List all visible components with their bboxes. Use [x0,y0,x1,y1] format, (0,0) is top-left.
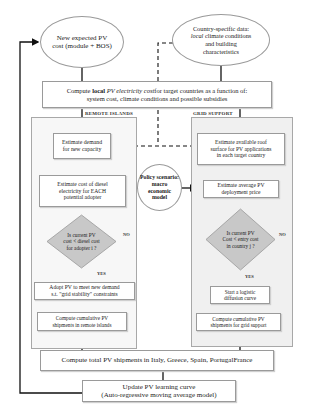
box-text: Compute [67,87,92,94]
box-text: Estimate average PV [218,182,265,188]
box-text: in each target country [217,152,266,158]
grid-no-label: NO [279,232,286,237]
box-text: potential adopter [64,194,102,200]
box-text: Compute total PV shipments in Italy, Gre… [62,356,253,364]
box-text: s.t. "grid stability" constraints [51,291,118,297]
box-text: for new capacity [63,146,102,152]
grid-decision-diamond: Is current PV Cost < entry cost in count… [205,208,276,271]
diamond-text: in country j ? [226,243,254,249]
ellipse-text: Country-specific data: [193,25,249,32]
box-text: Estimate available roof [215,139,267,145]
circle-text: Policy scenario: [140,174,179,180]
ellipse-text: climate conditions [203,32,251,39]
diamond-text: Cost < entry cost [222,236,258,242]
logistic-diffusion-box: Start a logistic diffusion curve [210,286,270,304]
box-text: surface for PV applications [211,146,272,152]
circle-text: economic [148,188,171,194]
panel-label-grid-support: GRID SUPPORT [193,111,233,116]
estimate-deployment-price-box: Estimate average PV deployment price [203,180,279,198]
box-text: Estimate cost of diesel [57,181,108,187]
remote-yes-label: YES [97,271,106,276]
box-text: for target countries as a function of: [154,87,247,94]
cumulative-grid-box: Compute cumulative PV shipments for grid… [196,313,281,331]
grid-yes-label: YES [245,274,254,279]
box-text: Compute cumulative PV [212,316,264,322]
ellipse-text: and building [205,40,237,47]
circle-text: macro [152,181,168,187]
remote-no-label: NO [123,232,130,237]
ellipse-text: New expected PV [57,34,108,42]
update-learning-curve-box: Update PV learning curve (Auto-regressiv… [82,380,236,402]
box-text: system cost, climate conditions and poss… [87,95,228,102]
compute-local-cost-box: Compute local PV electricity costfor tar… [42,81,272,108]
cumulative-remote-box: Compute cumulative PV shipments in remot… [37,312,127,331]
ellipse-text: cost (module + BOS) [52,42,112,50]
diamond-text: Is current PV [226,230,254,236]
panel-label-remote-islands: REMOTE ISLANDS [85,111,133,116]
box-text: Estimate demand [62,139,102,145]
ellipse-text: characteristics [203,48,239,55]
box-text: (Auto-regressive moving average model) [101,391,216,399]
box-text: Adopt PV to meet new demand [49,284,119,290]
diamond-text: for adopter i ? [67,245,97,251]
box-text: shipments in remote islands [53,322,112,328]
adopt-pv-box: Adopt PV to meet new demand s.t. "grid s… [34,282,135,300]
diamond-text: cost < diesel cost [63,238,99,244]
total-shipments-box: Compute total PV shipments in Italy, Gre… [40,350,274,371]
box-text-italic: PV electricity cost [105,87,154,94]
box-text: Update PV learning curve [123,383,196,391]
box-text: deployment price [221,189,260,195]
box-text: Start a logistic [225,289,256,295]
box-text: diffusion curve [224,295,256,301]
box-text-bold: local [92,87,105,94]
ellipse-text-italic: local [191,32,204,39]
box-text: shipments for grid support [210,322,266,328]
policy-scenario-circle: Policy scenario: macro economic model [137,164,182,211]
new-expected-pv-cost-ellipse: New expected PV cost (module + BOS) [40,16,124,68]
remote-decision-diamond: Is current PV cost < diesel cost for ado… [46,214,117,269]
box-text: Compute cumulative PV [56,315,108,321]
country-specific-data-ellipse: Country-specific data: local climate con… [172,14,270,66]
circle-text: model [152,194,167,200]
box-text: electricity for EACH [59,188,106,194]
estimate-roof-surface-box: Estimate available roof surface for PV a… [197,133,285,165]
estimate-demand-box: Estimate demand for new capacity [53,133,111,159]
estimate-diesel-cost-box: Estimate cost of diesel electricity for … [39,175,126,207]
diamond-text: Is current PV [67,232,95,238]
